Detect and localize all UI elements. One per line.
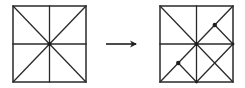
right-square-upper-right-dot [213,23,217,27]
left-square-center-dot [48,42,52,46]
right-square-right-mid-dot [232,43,235,46]
right-square-upper-right-fold [215,25,233,44]
right-square-bottom-mid-dot [195,81,198,84]
right-square-figure [160,6,234,83]
right-square-lower-left-dot [176,61,180,65]
left-square-figure [13,6,86,82]
right-square-center-dot [195,42,199,46]
transformation-diagram [0,0,245,88]
right-square-lower-left-fold [178,63,196,82]
